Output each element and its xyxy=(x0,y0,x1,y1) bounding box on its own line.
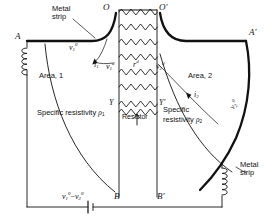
v2-d-sub: 2 xyxy=(160,66,162,71)
area-2-label: Area, 2 xyxy=(188,72,212,80)
figure-canvas: O O' A A' B B' Y Y' Metal strip Metal st… xyxy=(0,0,273,219)
metal-strip-top-label-line2: strip xyxy=(52,13,66,21)
emf-v1-sub: 1 xyxy=(66,196,68,201)
coil-left xyxy=(22,48,27,75)
node-label-A-prime: A' xyxy=(249,28,256,37)
resistor-rung xyxy=(119,24,157,30)
node-label-B: B xyxy=(114,192,120,201)
metal-strip-bottom-label-line2: strip xyxy=(240,169,254,177)
v1-surface-sub: 1 xyxy=(73,47,75,52)
current-label-1: i1 xyxy=(94,61,99,70)
resistor-rung xyxy=(119,39,157,45)
battery-symbol xyxy=(88,201,93,213)
v1-d-sub: 1 xyxy=(110,66,112,71)
node-label-O: O xyxy=(103,3,110,12)
resistivity-2-line2: resistivity ρ2 xyxy=(163,116,202,124)
node-label-Y: Y xyxy=(109,99,113,107)
resistivity-2-line1: Specific xyxy=(163,106,189,114)
i1-sub: 1 xyxy=(96,64,98,69)
resistor-caption: Resistor xyxy=(122,113,148,120)
emf-v2-sub: 2 xyxy=(79,196,81,201)
resistivity-2-index: 2 xyxy=(200,119,203,124)
node-label-A: A xyxy=(15,32,21,41)
current-path-1 xyxy=(95,39,113,64)
resistor-rung xyxy=(119,69,157,75)
v2-d-sup: d xyxy=(162,61,164,66)
emf-label: v10−v20 xyxy=(62,192,84,202)
resistance-r-d: rd xyxy=(133,60,139,69)
metal-strip-right xyxy=(160,13,246,41)
resistivity-1-text: Specific resistivity ρ1 xyxy=(37,109,104,117)
r-d-sup: d xyxy=(136,59,138,64)
potential-v2-d: v2d xyxy=(156,62,165,72)
current-label-2: i2 xyxy=(194,91,199,100)
current-arrow-2 xyxy=(186,93,191,99)
node-label-B-prime: B' xyxy=(157,192,164,201)
potential-v1-d: v1d xyxy=(106,62,115,72)
emf-v2-sup: 0 xyxy=(81,191,83,196)
leader-metal-strip-top xyxy=(73,19,95,38)
resistor-rung xyxy=(119,101,157,107)
resistor-rung xyxy=(119,84,157,90)
resistivity-1-words: Specific resistivity xyxy=(37,108,96,117)
metal-strip-left xyxy=(27,13,116,41)
resistivity-1-index: 1 xyxy=(102,112,105,117)
potential-v1-surface: v10 xyxy=(69,43,78,53)
area-1-label: Area, 1 xyxy=(39,72,63,80)
v1-surface-sup: 0 xyxy=(75,42,77,47)
coil-right xyxy=(222,168,227,195)
area1-boundary-arc xyxy=(45,44,115,192)
node-label-O-prime: O' xyxy=(159,3,167,12)
i2-sub: 2 xyxy=(196,94,198,99)
resistivity-2-words: resistivity xyxy=(163,115,194,124)
v1-d-sup: d xyxy=(112,61,114,66)
